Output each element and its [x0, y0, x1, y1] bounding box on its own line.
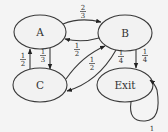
svg-text:1: 1: [143, 48, 147, 56]
svg-text:3: 3: [41, 56, 45, 64]
svg-text:2: 2: [81, 4, 85, 12]
edge-c-to-b: 1 2: [66, 46, 105, 79]
svg-text:4: 4: [143, 56, 148, 64]
state-diagram: A B C Exit 2 3 1 2 1 3 1 2: [0, 0, 168, 132]
edge-a-to-b: 2 3: [63, 4, 101, 24]
svg-text:2: 2: [75, 50, 79, 58]
node-c: C: [13, 68, 67, 102]
node-exit-label: Exit: [114, 79, 136, 91]
node-a-label: A: [35, 26, 44, 38]
svg-text:1: 1: [21, 52, 25, 60]
node-exit: Exit: [97, 68, 153, 102]
node-b-label: B: [121, 27, 129, 39]
node-c-label: C: [36, 79, 44, 91]
svg-text:1: 1: [41, 48, 45, 56]
edge-a-to-c: 1 3: [40, 48, 50, 69]
edge-b-to-a: 1 2: [65, 38, 99, 58]
node-b: B: [98, 15, 152, 51]
svg-text:4: 4: [119, 57, 124, 65]
svg-text:1: 1: [119, 49, 123, 57]
svg-text:3: 3: [81, 12, 85, 20]
svg-text:1: 1: [90, 56, 94, 64]
svg-text:2: 2: [21, 60, 25, 68]
svg-text:2: 2: [90, 64, 94, 72]
svg-text:1: 1: [150, 125, 154, 132]
edge-b-to-exit: 1 4: [136, 48, 148, 68]
node-a: A: [14, 15, 66, 49]
svg-text:1: 1: [75, 42, 79, 50]
edge-c-to-a: 1 2: [20, 49, 30, 69]
